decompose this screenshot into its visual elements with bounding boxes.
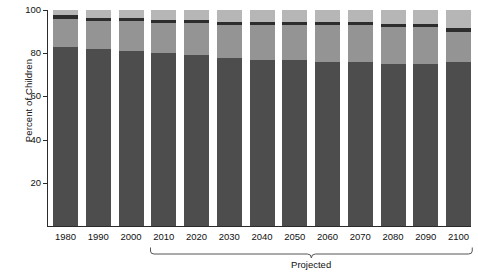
bar-segment-segment-3 (53, 15, 78, 18)
bar-segment-segment-1 (381, 64, 406, 226)
bar-segment-segment-1 (119, 51, 144, 226)
bar-segment-segment-3 (86, 18, 111, 21)
bar-segment-segment-4 (381, 10, 406, 24)
bar-segment-segment-2 (53, 19, 78, 47)
bar-segment-segment-2 (151, 23, 176, 53)
bar-2070 (348, 10, 373, 226)
bar-segment-segment-3 (315, 22, 340, 25)
bar-segment-segment-2 (282, 25, 307, 60)
bar-series-layer (47, 10, 471, 226)
bar-segment-segment-4 (53, 10, 78, 15)
bar-segment-segment-3 (119, 18, 144, 21)
bar-2090 (413, 10, 438, 226)
bar-segment-segment-1 (282, 60, 307, 226)
bar-segment-segment-3 (217, 22, 242, 25)
bar-segment-segment-2 (119, 21, 144, 51)
bar-segment-segment-3 (381, 24, 406, 27)
bar-segment-segment-3 (250, 22, 275, 25)
x-axis-line (47, 226, 471, 227)
bar-segment-segment-4 (184, 10, 209, 20)
bar-segment-segment-2 (381, 27, 406, 64)
bar-2080 (381, 10, 406, 226)
bar-2060 (315, 10, 340, 226)
bar-segment-segment-4 (119, 10, 144, 18)
x-tick-label-2100: 2100 (439, 231, 478, 242)
bar-segment-segment-1 (184, 55, 209, 226)
bar-2050 (282, 10, 307, 226)
y-tick-label: 40 (30, 135, 41, 145)
y-tick-label: 80 (30, 48, 41, 58)
bar-segment-segment-3 (184, 20, 209, 23)
projected-label: Projected (150, 259, 473, 270)
bar-segment-segment-1 (53, 47, 78, 226)
bar-segment-segment-4 (250, 10, 275, 22)
bar-segment-segment-4 (446, 10, 471, 28)
bar-segment-segment-1 (86, 49, 111, 226)
bar-1990 (86, 10, 111, 226)
bar-segment-segment-1 (446, 62, 471, 226)
bar-segment-segment-2 (413, 27, 438, 64)
bar-2000 (119, 10, 144, 226)
bar-segment-segment-2 (348, 25, 373, 62)
plot-area: 20406080100 (47, 10, 471, 227)
bar-segment-segment-1 (250, 60, 275, 226)
bar-segment-segment-4 (413, 10, 438, 24)
bar-segment-segment-3 (446, 28, 471, 31)
bar-segment-segment-3 (151, 20, 176, 23)
bar-segment-segment-4 (315, 10, 340, 22)
bar-segment-segment-1 (348, 62, 373, 226)
bar-segment-segment-2 (217, 25, 242, 57)
bar-2020 (184, 10, 209, 226)
y-tick-label: 100 (25, 5, 41, 15)
bar-segment-segment-4 (151, 10, 176, 20)
y-tick-label: 20 (30, 178, 41, 188)
stacked-bar-chart: Percent of Children 20406080100 19801990… (0, 0, 478, 274)
bar-segment-segment-4 (217, 10, 242, 22)
y-tick-label: 60 (30, 92, 41, 102)
bar-2010 (151, 10, 176, 226)
bar-segment-segment-4 (282, 10, 307, 22)
bar-segment-segment-3 (413, 24, 438, 27)
bar-segment-segment-2 (250, 25, 275, 60)
bar-segment-segment-1 (151, 53, 176, 226)
bar-segment-segment-4 (348, 10, 373, 22)
bar-2100 (446, 10, 471, 226)
bar-2030 (217, 10, 242, 226)
bar-segment-segment-2 (315, 25, 340, 62)
projected-bracket-icon (150, 247, 473, 259)
bar-segment-segment-3 (282, 22, 307, 25)
x-axis-labels: 1980199020002010202020302040205020602070… (47, 231, 471, 245)
bar-segment-segment-2 (446, 32, 471, 62)
bar-segment-segment-2 (86, 21, 111, 49)
bar-segment-segment-1 (217, 58, 242, 226)
bar-segment-segment-2 (184, 23, 209, 55)
bar-1980 (53, 10, 78, 226)
bar-segment-segment-3 (348, 22, 373, 25)
bar-2040 (250, 10, 275, 226)
bar-segment-segment-1 (315, 62, 340, 226)
bar-segment-segment-4 (86, 10, 111, 18)
bar-segment-segment-1 (413, 64, 438, 226)
